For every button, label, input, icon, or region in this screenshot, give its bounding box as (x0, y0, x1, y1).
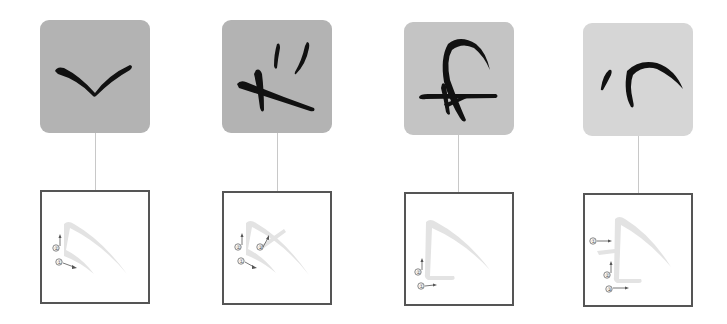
connector-line-1 (95, 133, 96, 190)
stroke-order-box-3: ② ① (404, 192, 514, 306)
stroke-order-diagram: ② ① (406, 194, 512, 304)
connector-line-2 (277, 133, 278, 191)
character-tile-1 (40, 20, 150, 133)
svg-text:②: ② (54, 245, 59, 251)
svg-text:①: ① (57, 259, 62, 265)
svg-text:①: ① (419, 283, 424, 289)
stroke-order-diagram: ② ③ ① (224, 193, 330, 303)
brush-stroke-icon (40, 20, 150, 133)
stroke-order-box-4: ① ② ③ (583, 193, 693, 307)
svg-text:②: ② (236, 244, 241, 250)
svg-text:①: ① (591, 238, 596, 244)
svg-text:②: ② (605, 272, 610, 278)
svg-text:①: ① (239, 258, 244, 264)
character-tile-3 (404, 22, 514, 135)
stroke-order-diagram: ① ② ③ (585, 195, 691, 305)
svg-text:②: ② (416, 269, 421, 275)
svg-text:③: ③ (258, 244, 263, 250)
stroke-order-box-1: ② ① (40, 190, 150, 304)
character-tile-4 (583, 23, 693, 136)
connector-line-3 (458, 135, 459, 192)
brush-stroke-icon (404, 22, 514, 135)
character-tile-2 (222, 20, 332, 133)
stroke-order-diagram: ② ① (42, 192, 148, 302)
brush-stroke-icon (583, 23, 693, 136)
connector-line-4 (638, 136, 639, 193)
svg-text:③: ③ (607, 286, 612, 292)
brush-stroke-icon (222, 20, 332, 133)
stroke-order-box-2: ② ③ ① (222, 191, 332, 305)
